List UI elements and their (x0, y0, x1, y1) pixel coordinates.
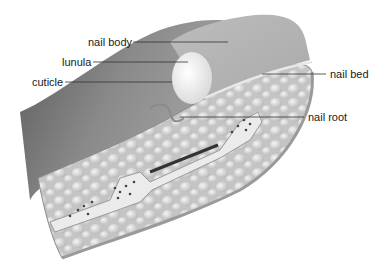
label-nail-bed: nail bed (330, 68, 369, 80)
illustration (0, 0, 385, 269)
label-cuticle: cuticle (32, 76, 63, 88)
label-nail-root: nail root (308, 111, 347, 123)
nail-anatomy-diagram: nail body lunula cuticle nail bed nail r… (0, 0, 385, 269)
label-nail-body: nail body (88, 36, 132, 48)
lunula-shape (172, 52, 212, 104)
label-lunula: lunula (62, 56, 91, 68)
